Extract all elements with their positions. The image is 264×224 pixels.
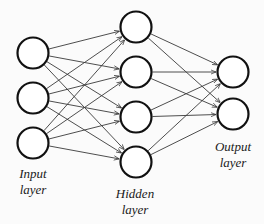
output-layer-label-line1: Output [198, 139, 264, 155]
hidden-node-3 [121, 102, 152, 133]
input-node-2 [18, 83, 49, 114]
input-layer-label-line1: Input [0, 166, 68, 182]
output-node-2 [218, 99, 249, 130]
hidden-layer-label-line2: layer [100, 202, 170, 218]
connection-edges [44, 31, 221, 159]
output-node-1 [218, 57, 249, 88]
hidden-node-2 [121, 57, 152, 88]
hidden-node-4 [121, 147, 152, 178]
edge-input2-to-hidden1 [47, 37, 122, 89]
hidden-layer-label: Hidden layer [100, 186, 170, 217]
hidden-node-1 [121, 12, 152, 43]
input-node-1 [18, 38, 49, 69]
edge-input3-to-hidden3 [49, 121, 120, 139]
edge-input3-to-hidden2 [47, 82, 122, 134]
edge-hidden3-to-output1 [151, 79, 218, 110]
edge-hidden3-to-output2 [152, 115, 216, 117]
input-layer-label: Input layer [0, 166, 68, 197]
edge-hidden2-to-output2 [151, 79, 217, 108]
edge-input1-to-hidden1 [49, 31, 120, 49]
input-layer-label-line2: layer [0, 182, 68, 198]
edge-input3-to-hidden4 [49, 146, 119, 159]
hidden-layer-label-line1: Hidden [100, 186, 170, 202]
edge-input3-to-hidden1 [44, 40, 125, 131]
output-layer-label: Output layer [198, 139, 264, 170]
input-node-3 [18, 128, 49, 159]
output-layer-label-line2: layer [198, 155, 264, 171]
